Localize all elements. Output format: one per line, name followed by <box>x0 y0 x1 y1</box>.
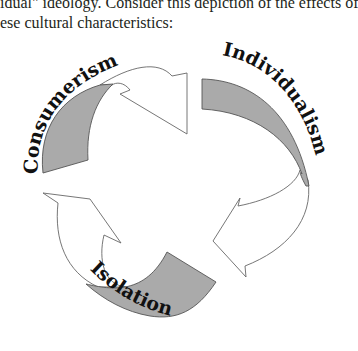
stage-consumerism: Consumerism <box>20 48 187 174</box>
arrow-consumerism-to-individualism <box>100 67 187 134</box>
stage-individualism: Individualism <box>202 37 333 277</box>
arrow-individualism-to-isolation <box>213 170 309 277</box>
stage-isolation: Isolation <box>43 193 216 320</box>
